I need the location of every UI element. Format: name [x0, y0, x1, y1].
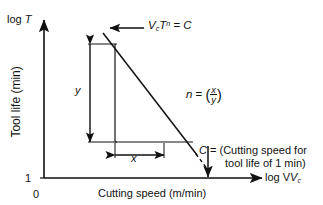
- taylor-equals: =: [170, 19, 183, 31]
- rise-dimension-line: [88, 44, 117, 142]
- taylor-constant: C: [183, 19, 191, 31]
- y-axis-top-label-text: log: [7, 13, 25, 25]
- c-definition-line1: (Cutting speed for: [220, 144, 307, 156]
- taylor-equation-label: VcTn = C: [148, 19, 192, 33]
- x-axis-right-subscript: c: [297, 177, 300, 184]
- slope-denominator: y: [210, 95, 217, 105]
- y-axis-tick-label: 1: [25, 172, 31, 185]
- origin-label: 0: [33, 188, 39, 201]
- x-axis-right-label: log VVc: [265, 171, 301, 185]
- run-label: x: [131, 152, 137, 165]
- tool-life-taylor-diagram: log T Tool life (min) 1 0 Cutting speed …: [0, 0, 323, 205]
- slope-fraction: xy: [210, 85, 217, 106]
- slope-paren-close: ): [217, 87, 222, 103]
- run-dimension-line: [115, 143, 164, 158]
- y-axis-title: Tool life (min): [10, 59, 24, 145]
- c-definition-equals: =: [207, 144, 220, 156]
- taylor-v-symbol: V: [148, 19, 156, 31]
- taylor-line: [103, 33, 197, 155]
- x-axis-title: Cutting speed (m/min): [98, 187, 206, 200]
- x-axis-right-label-base: log V: [265, 171, 290, 183]
- y-axis-top-label: log T: [7, 13, 31, 26]
- c-definition-label: C = (Cutting speed fortool life of 1 min…: [199, 144, 307, 169]
- c-definition-line2: tool life of 1 min): [199, 157, 307, 170]
- rise-label: y: [75, 84, 81, 97]
- slope-equation-label: n = (xy): [186, 85, 222, 106]
- y-axis-top-symbol: T: [25, 13, 32, 25]
- c-definition-symbol: C: [199, 144, 207, 156]
- slope-equals: =: [192, 88, 205, 100]
